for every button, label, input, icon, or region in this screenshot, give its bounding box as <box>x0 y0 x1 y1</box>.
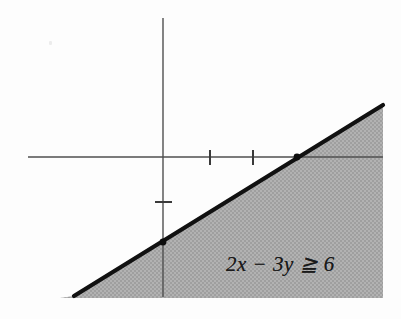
inequality-graph-figure: 2x − 3y ≧ 6 <box>0 0 401 319</box>
plot-canvas <box>0 0 401 319</box>
x-intercept-point <box>294 154 301 161</box>
y-intercept-point <box>160 239 167 246</box>
inequality-equation-label: 2x − 3y ≧ 6 <box>226 252 335 277</box>
paper-speck-artifact <box>49 41 52 45</box>
